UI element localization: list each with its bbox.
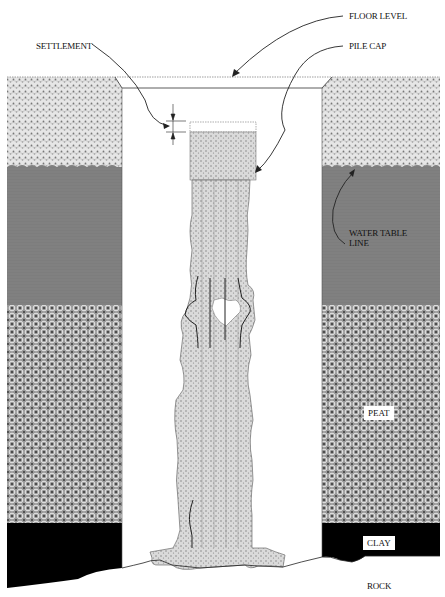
peat-label: PEAT [364,406,394,420]
pile-cap-label: PILE CAP [349,41,386,51]
left-soil-column [7,77,122,588]
floor-level-label: FLOOR LEVEL [349,11,407,21]
pile-settlement-diagram: FLOOR LEVEL SETTLEMENT PILE CAP WATER TA… [0,0,445,597]
rock-label: ROCK [367,581,391,591]
diagram-canvas [0,0,445,597]
pile-shaft [150,180,285,569]
water-table-line-label-1: WATER TABLE [349,228,407,238]
water-table-line-label-2: LINE [349,238,369,248]
right-soil-column [322,77,440,562]
settlement-dimension [166,104,186,145]
pile-cap [190,132,256,180]
original-cap-outline [190,122,256,132]
clay-label: CLAY [363,536,395,550]
settlement-label: SETTLEMENT [36,41,92,51]
